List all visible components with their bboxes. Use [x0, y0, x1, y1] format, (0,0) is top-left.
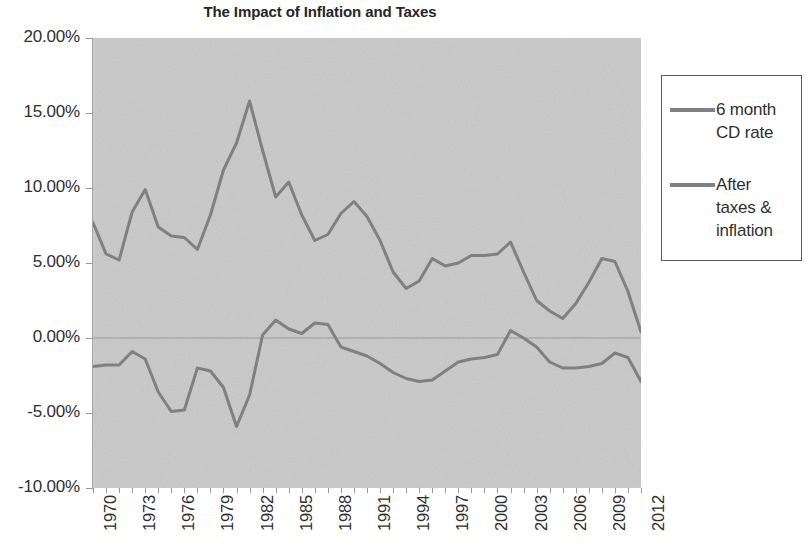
x-axis-tick-mark	[93, 488, 94, 493]
x-axis-tick-mark	[237, 488, 238, 493]
x-axis-tick-mark	[589, 488, 590, 493]
series-line-cd-rate	[93, 101, 641, 332]
x-axis-tick-mark	[497, 488, 498, 493]
x-axis-tick-label: 1982	[258, 495, 277, 531]
x-axis-tick-mark	[563, 488, 564, 493]
x-axis-tick-label: 2006	[571, 495, 590, 531]
x-axis-tick-mark	[354, 488, 355, 493]
x-axis-tick-label: 1997	[453, 495, 472, 531]
x-axis-tick-label: 2009	[610, 495, 629, 531]
x-axis-tick-mark	[276, 488, 277, 493]
x-axis-tick-mark	[511, 488, 512, 493]
y-axis-tick-mark	[86, 488, 93, 489]
x-axis-tick-mark	[524, 488, 525, 493]
y-axis-tick-mark	[86, 338, 93, 339]
x-axis-tick-mark	[328, 488, 329, 493]
legend-label-line1: 6 month	[716, 100, 776, 119]
chart-container: The Impact of Inflation and Taxes 20.00%…	[0, 0, 806, 549]
x-axis-tick-mark	[106, 488, 107, 493]
legend-label-cd-rate: 6 monthCD rate	[716, 98, 776, 144]
legend-line-swatch-cd-rate	[670, 108, 715, 112]
x-axis-tick-mark	[432, 488, 433, 493]
x-axis-tick-label: 1991	[375, 495, 394, 531]
chart-title: The Impact of Inflation and Taxes	[0, 3, 640, 20]
x-axis-tick-label: 2003	[532, 495, 551, 531]
y-axis-tick-mark	[86, 38, 93, 39]
y-axis-tick-label: 0.00%	[33, 327, 80, 347]
x-axis-tick-mark	[458, 488, 459, 493]
legend-label-line3: inflation	[716, 221, 773, 240]
x-axis-tick-mark	[471, 488, 472, 493]
x-axis-tick-mark	[315, 488, 316, 493]
x-axis-tick-mark	[445, 488, 446, 493]
x-axis-tick-mark	[184, 488, 185, 493]
x-axis-tick-mark	[602, 488, 603, 493]
x-axis-tick-mark	[171, 488, 172, 493]
x-axis-tick-mark	[628, 488, 629, 493]
x-axis-tick-mark	[393, 488, 394, 493]
y-axis-tick-label: 15.00%	[24, 102, 80, 122]
x-axis-tick-mark	[302, 488, 303, 493]
legend-label-after-taxes: Aftertaxes &inflation	[716, 173, 773, 242]
y-axis-tick-label: -10.00%	[18, 477, 80, 497]
x-axis-tick-mark	[419, 488, 420, 493]
y-axis-tick-mark	[86, 113, 93, 114]
x-axis-tick-label: 1985	[297, 495, 316, 531]
x-axis-tick-label: 2012	[649, 495, 668, 531]
x-axis-tick-mark	[145, 488, 146, 493]
x-axis-tick-mark	[210, 488, 211, 493]
y-axis-tick-mark	[86, 413, 93, 414]
x-axis-tick-mark	[263, 488, 264, 493]
x-axis-tick-label: 1970	[101, 495, 120, 531]
series-plot	[93, 38, 641, 488]
x-axis-tick-mark	[341, 488, 342, 493]
x-axis-tick-mark	[132, 488, 133, 493]
x-axis-tick-mark	[223, 488, 224, 493]
x-axis-tick-label: 2000	[492, 495, 511, 531]
y-axis-tick-label: 20.00%	[24, 27, 80, 47]
x-axis-tick-mark	[576, 488, 577, 493]
legend-label-line2: taxes &	[716, 198, 771, 217]
x-axis-tick-mark	[250, 488, 251, 493]
y-axis-tick-mark	[86, 188, 93, 189]
y-axis-tick-mark	[86, 263, 93, 264]
x-axis-tick-mark	[119, 488, 120, 493]
x-axis-tick-label: 1994	[414, 495, 433, 531]
x-axis-tick-mark	[641, 488, 642, 493]
legend-item-cd-rate: 6 monthCD rate	[670, 98, 798, 144]
y-axis-tick-label: 5.00%	[33, 252, 80, 272]
plot-area	[93, 38, 641, 488]
x-axis-tick-mark	[484, 488, 485, 493]
chart-legend: 6 monthCD rate Aftertaxes &inflation	[661, 75, 802, 261]
x-axis-tick-label: 1988	[336, 495, 355, 531]
x-axis-tick-mark	[289, 488, 290, 493]
x-axis-tick-label: 1976	[179, 495, 198, 531]
x-axis-tick-mark	[367, 488, 368, 493]
x-axis-tick-mark	[537, 488, 538, 493]
x-axis-tick-mark	[380, 488, 381, 493]
legend-label-line2: CD rate	[716, 123, 773, 142]
legend-label-line1: After	[716, 175, 751, 194]
x-axis-tick-label: 1973	[140, 495, 159, 531]
x-axis-tick-label: 1979	[218, 495, 237, 531]
series-line-after-taxes-inflation	[93, 320, 641, 427]
x-axis-tick-mark	[615, 488, 616, 493]
y-axis-tick-label: -5.00%	[27, 402, 80, 422]
y-axis-tick-label: 10.00%	[24, 177, 80, 197]
x-axis-tick-mark	[406, 488, 407, 493]
legend-line-swatch-after-taxes	[670, 183, 715, 187]
x-axis-tick-mark	[158, 488, 159, 493]
legend-item-after-taxes-inflation: Aftertaxes &inflation	[670, 173, 798, 242]
x-axis-tick-mark	[550, 488, 551, 493]
x-axis-tick-mark	[197, 488, 198, 493]
